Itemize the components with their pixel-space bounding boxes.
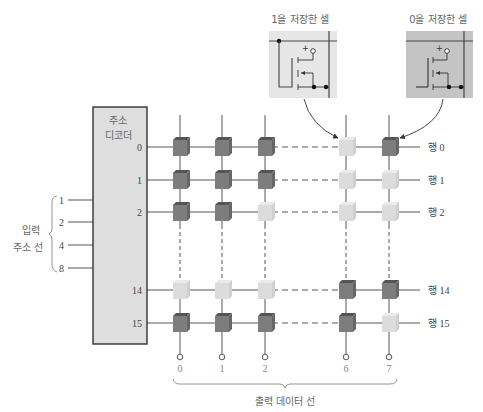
svg-text:1: 1 bbox=[137, 175, 142, 186]
svg-text:2: 2 bbox=[263, 363, 268, 374]
cell-storing-1 bbox=[258, 137, 275, 156]
cell-storing-0 bbox=[173, 280, 190, 299]
cell-storing-1 bbox=[215, 313, 232, 332]
svg-text:8: 8 bbox=[59, 263, 64, 274]
cell-storing-1 bbox=[173, 202, 190, 221]
cell-storing-1 bbox=[339, 313, 356, 332]
cell-storing-1 bbox=[215, 202, 232, 221]
svg-text:주소 선: 주소 선 bbox=[13, 242, 43, 253]
column-lines bbox=[180, 115, 389, 354]
callout-cell-one-label: 1을 저장한 셀 bbox=[271, 14, 329, 25]
memory-cells bbox=[173, 137, 399, 332]
cell-storing-1 bbox=[382, 137, 399, 156]
svg-text:+: + bbox=[302, 44, 309, 53]
cell-storing-1 bbox=[215, 170, 232, 189]
cell-storing-0 bbox=[215, 280, 232, 299]
input-brace bbox=[49, 196, 57, 272]
svg-text:1: 1 bbox=[220, 363, 225, 374]
row-label: 행 1 bbox=[428, 175, 445, 186]
svg-text:입력: 입력 bbox=[22, 224, 40, 236]
svg-text:15: 15 bbox=[132, 318, 142, 329]
svg-text:2: 2 bbox=[137, 207, 142, 218]
cell-storing-0 bbox=[339, 202, 356, 221]
svg-text:1: 1 bbox=[59, 195, 64, 206]
cell-storing-1 bbox=[339, 280, 356, 299]
cell-storing-1 bbox=[382, 280, 399, 299]
svg-text:7: 7 bbox=[387, 363, 392, 374]
svg-text:6: 6 bbox=[344, 363, 349, 374]
cell-storing-0 bbox=[382, 313, 399, 332]
cell-storing-0 bbox=[339, 170, 356, 189]
callout-cell-one: 1을 저장한 셀 + bbox=[269, 14, 337, 98]
svg-text:14: 14 bbox=[132, 285, 142, 296]
row-label: 행 0 bbox=[428, 142, 445, 153]
cell-storing-0 bbox=[339, 137, 356, 156]
cell-storing-1 bbox=[258, 170, 275, 189]
cell-storing-0 bbox=[258, 280, 275, 299]
input-address-lines: 1 2 4 8 입력 주소 선 bbox=[13, 195, 93, 274]
arrow-cell-zero bbox=[400, 99, 443, 138]
row-label: 행 15 bbox=[428, 318, 450, 329]
cell-storing-1 bbox=[173, 313, 190, 332]
rom-diagram: 1을 저장한 셀 + 0을 저장한 셀 + bbox=[0, 0, 483, 412]
svg-text:0: 0 bbox=[137, 142, 142, 153]
output-brace bbox=[173, 379, 397, 388]
cell-storing-1 bbox=[173, 170, 190, 189]
cell-storing-1 bbox=[215, 137, 232, 156]
cell-storing-0 bbox=[382, 170, 399, 189]
cell-storing-0 bbox=[382, 202, 399, 221]
callout-cell-zero-label: 0을 저장한 셀 bbox=[409, 14, 467, 25]
svg-text:0: 0 bbox=[178, 363, 183, 374]
svg-text:디코더: 디코더 bbox=[105, 130, 132, 141]
output-terminals bbox=[177, 354, 392, 360]
row-label: 행 2 bbox=[428, 207, 445, 218]
svg-text:+: + bbox=[436, 44, 443, 53]
svg-text:4: 4 bbox=[59, 240, 64, 251]
cell-storing-1 bbox=[258, 313, 275, 332]
arrow-cell-one bbox=[304, 99, 338, 138]
svg-text:2: 2 bbox=[59, 217, 64, 228]
row-label: 행 14 bbox=[428, 285, 450, 296]
cell-storing-0 bbox=[258, 202, 275, 221]
svg-text:출력 데이터 선: 출력 데이터 선 bbox=[255, 396, 315, 407]
cell-storing-1 bbox=[173, 137, 190, 156]
callout-cell-zero: 0을 저장한 셀 + bbox=[406, 14, 473, 98]
svg-text:주소: 주소 bbox=[109, 115, 127, 126]
